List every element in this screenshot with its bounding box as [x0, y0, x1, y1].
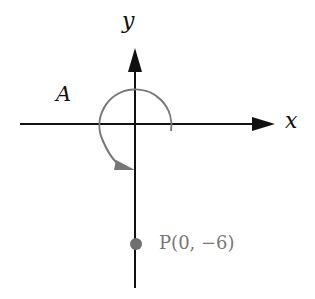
- coordinate-diagram: [0, 0, 315, 299]
- arc-arrowhead-icon: [114, 160, 135, 170]
- y-axis-label: y: [122, 8, 134, 33]
- angle-label: A: [56, 82, 71, 106]
- point-p-label: P(0, −6): [159, 232, 235, 253]
- point-p-marker: [130, 238, 142, 250]
- x-axis-label: x: [285, 108, 297, 133]
- y-axis-arrow-icon: [128, 48, 142, 72]
- x-axis-arrow-icon: [252, 117, 275, 131]
- x-axis: [20, 117, 275, 131]
